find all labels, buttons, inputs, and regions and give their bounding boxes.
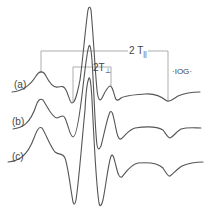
trace-a — [12, 7, 200, 103]
scale-bar-label: ·IOG· — [172, 67, 192, 77]
t-perp-label: 2T⊥ — [93, 63, 111, 76]
epr-spectra-figure — [0, 0, 211, 216]
t-parallel-prefix: 2 T — [129, 45, 143, 56]
trace-b-label: (b) — [12, 117, 24, 127]
t-parallel-label: 2 T|| — [128, 46, 148, 59]
t-perp-prefix: 2T — [93, 62, 105, 73]
t-parallel-subscript: || — [143, 50, 147, 57]
trace-a-label: (a) — [14, 80, 26, 90]
trace-c-label: (c) — [12, 152, 24, 162]
t-perp-subscript: ⊥ — [105, 67, 111, 74]
trace-c — [8, 78, 203, 206]
